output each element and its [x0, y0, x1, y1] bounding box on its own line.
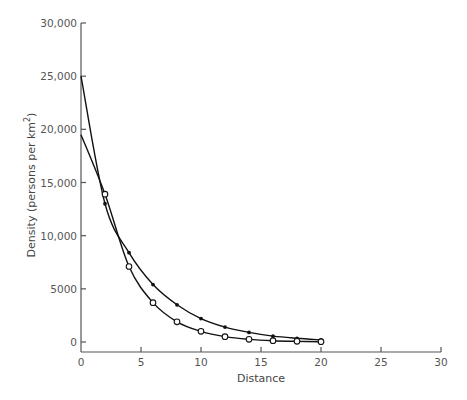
open-circle-marker [222, 334, 228, 340]
series-line [81, 76, 321, 340]
y-tick-label: 10,000 [40, 230, 77, 242]
filled-dot-marker [247, 331, 251, 335]
y-tick-label: 25,000 [40, 70, 77, 82]
series-open-markers [81, 135, 324, 345]
open-circle-marker [318, 339, 324, 345]
x-tick-label: 0 [78, 356, 85, 368]
x-axis-title: Distance [237, 372, 285, 385]
filled-dot-marker [151, 283, 155, 287]
y-tick-label: 30,000 [40, 17, 77, 29]
series-group [81, 76, 324, 344]
y-tick-label: 15,000 [40, 177, 77, 189]
x-tick-label: 25 [374, 356, 387, 368]
open-circle-marker [246, 337, 252, 343]
open-circle-marker [150, 300, 156, 306]
series-line [81, 135, 321, 342]
filled-dot-marker [103, 202, 107, 206]
x-tick-label: 20 [314, 356, 327, 368]
open-circle-marker [198, 329, 204, 335]
y-axis-title-close: ) [25, 113, 38, 117]
x-tick-label: 30 [434, 356, 447, 368]
y-axis-title-main: Density (persons per km [25, 122, 38, 257]
filled-dot-marker [223, 325, 227, 329]
open-circle-marker [174, 319, 180, 325]
series-filled-markers [81, 76, 323, 342]
axes: 0500010,00015,00020,00025,00030,00005101… [40, 17, 447, 368]
open-circle-marker [294, 339, 300, 345]
filled-dot-marker [199, 317, 203, 321]
filled-dot-marker [127, 251, 131, 255]
y-tick-label: 0 [70, 336, 77, 348]
open-circle-marker [270, 338, 276, 344]
y-axis-title: Density (persons per km2) [23, 113, 38, 258]
filled-dot-marker [175, 303, 179, 307]
y-tick-label: 20,000 [40, 123, 77, 135]
open-circle-marker [102, 191, 108, 197]
density-distance-chart: 0500010,00015,00020,00025,00030,00005101… [0, 0, 467, 400]
y-tick-label: 5000 [50, 283, 77, 295]
x-tick-label: 5 [138, 356, 145, 368]
x-tick-label: 10 [194, 356, 207, 368]
open-circle-marker [126, 264, 132, 270]
x-tick-label: 15 [254, 356, 267, 368]
